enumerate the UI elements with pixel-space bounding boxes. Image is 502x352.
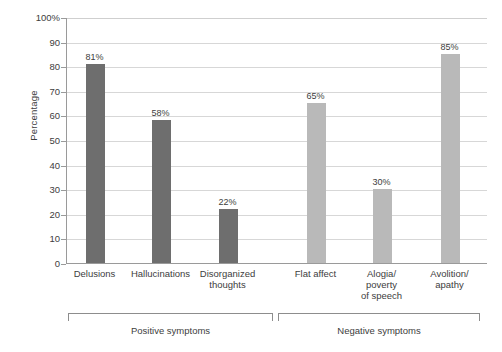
bar bbox=[219, 209, 238, 263]
plot-area bbox=[66, 18, 487, 264]
y-tick-label: 50 bbox=[16, 135, 60, 146]
group-bracket-label: Positive symptoms bbox=[68, 325, 273, 336]
bar-value-label: 30% bbox=[359, 177, 405, 187]
y-tick-label: 90 bbox=[16, 37, 60, 48]
bar bbox=[441, 54, 460, 263]
bar-value-label: 85% bbox=[427, 42, 473, 52]
gridline bbox=[67, 18, 487, 19]
bar-value-label: 22% bbox=[205, 197, 251, 207]
gridline bbox=[67, 116, 487, 117]
category-label-line: apathy bbox=[404, 279, 496, 290]
category-label-line: of speech bbox=[336, 290, 428, 301]
category-label: Avolition/apathy bbox=[404, 268, 496, 290]
gridline bbox=[67, 239, 487, 240]
gridline bbox=[67, 141, 487, 142]
bar bbox=[86, 64, 105, 263]
group-bracket bbox=[278, 313, 480, 321]
y-tick-label: 60 bbox=[16, 110, 60, 121]
y-tick-label: 30 bbox=[16, 184, 60, 195]
y-tick-mark bbox=[61, 264, 66, 265]
category-label-line: Disorganized bbox=[182, 268, 274, 279]
category-label-line: thoughts bbox=[182, 279, 274, 290]
bar-value-label: 65% bbox=[293, 91, 339, 101]
bar-chart: Percentage 100%9080706050403020100 81%58… bbox=[0, 0, 502, 352]
bar-value-label: 58% bbox=[138, 108, 184, 118]
bar bbox=[307, 103, 326, 263]
group-bracket-label: Negative symptoms bbox=[278, 325, 480, 336]
category-label-line: Avolition/ bbox=[404, 268, 496, 279]
gridline bbox=[67, 92, 487, 93]
bar-value-label: 81% bbox=[72, 52, 118, 62]
gridline bbox=[67, 67, 487, 68]
bar bbox=[152, 120, 171, 263]
gridline bbox=[67, 215, 487, 216]
bar bbox=[373, 189, 392, 263]
gridline bbox=[67, 166, 487, 167]
group-bracket bbox=[68, 313, 273, 321]
y-tick-label: 100% bbox=[16, 12, 60, 23]
y-tick-label: 10 bbox=[16, 233, 60, 244]
y-tick-label: 80 bbox=[16, 61, 60, 72]
y-tick-label: 70 bbox=[16, 86, 60, 97]
gridline bbox=[67, 43, 487, 44]
category-label: Disorganizedthoughts bbox=[182, 268, 274, 290]
y-tick-label: 40 bbox=[16, 160, 60, 171]
gridline bbox=[67, 190, 487, 191]
y-tick-label: 20 bbox=[16, 209, 60, 220]
